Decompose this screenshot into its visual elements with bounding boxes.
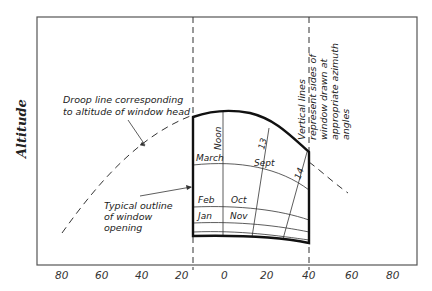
- y-axis-label: Altitude: [14, 99, 29, 160]
- vertical-note-line3: window drawn at: [318, 58, 329, 140]
- vertical-note-line2: represent sides of: [307, 53, 318, 140]
- vertical-note-line1: Vertical lines: [296, 79, 307, 140]
- droop-label-line1: Droop line corresponding: [63, 94, 183, 105]
- x-tick: 20: [260, 269, 274, 281]
- outline-label-line1: Typical outline: [104, 200, 173, 211]
- march-sept-path: [193, 164, 309, 190]
- x-tick: 40: [302, 269, 316, 281]
- x-tick: 0: [221, 269, 228, 281]
- vertical-note-line5: angles: [340, 109, 351, 140]
- hour-14-label: 14: [292, 166, 305, 180]
- outline-label-line3: opening: [104, 222, 142, 233]
- x-tick: 80: [55, 269, 69, 281]
- vertical-lines-note: Vertical lines represent sides of window…: [296, 43, 351, 140]
- noon-label: Noon: [213, 126, 223, 150]
- droop-arrow: [128, 120, 145, 145]
- plot-frame: [37, 17, 417, 265]
- vertical-note-line4: appropriate azimuth: [329, 43, 340, 140]
- outline-label-line2: of window: [104, 211, 152, 222]
- x-tick: 40: [135, 269, 149, 281]
- jan-label: Jan: [196, 211, 212, 221]
- x-tick: 80: [386, 269, 400, 281]
- hour-14-line: [283, 152, 307, 239]
- jan-nov-path: [193, 223, 309, 232]
- sun-path-diagram: Altitude 80 60 40 20 0 20 40 60 80 Droop…: [0, 0, 432, 291]
- x-tick: 20: [175, 269, 189, 281]
- outline-arrow-head: [186, 185, 192, 190]
- march-label: March: [196, 153, 224, 163]
- x-tick: 60: [95, 269, 109, 281]
- outline-arrow: [140, 187, 191, 196]
- sept-label: Sept: [254, 158, 275, 168]
- feb-label: Feb: [198, 195, 215, 205]
- oct-label: Oct: [231, 195, 247, 205]
- droop-line-right: [309, 162, 348, 193]
- droop-label-line2: to altitude of window head: [63, 106, 191, 117]
- x-tick: 60: [345, 269, 359, 281]
- nov-label: Nov: [230, 211, 248, 221]
